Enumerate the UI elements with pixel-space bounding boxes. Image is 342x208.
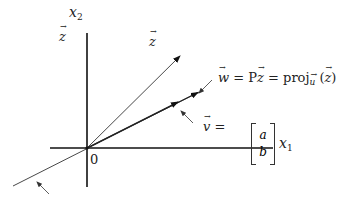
w-equation: w = Pz = proju (z) (218, 71, 336, 87)
z-label-left: z (59, 30, 66, 43)
diagram-canvas (0, 0, 342, 208)
pointer-line-arrow (37, 182, 49, 194)
pointer-v-arrow (181, 111, 193, 123)
x1-axis-label: x1 (279, 136, 293, 153)
origin-dot (85, 146, 88, 149)
vector-v (87, 102, 178, 148)
x2-axis-label: x2 (69, 5, 83, 22)
z-label-top: z (149, 35, 156, 48)
v-column-matrix: a b (251, 123, 275, 163)
pointer-w-arrow (199, 80, 212, 93)
vector-z (87, 56, 180, 148)
origin-label: 0 (90, 153, 98, 166)
matrix-right-bracket (270, 123, 275, 165)
v-equation: v = (203, 120, 225, 133)
